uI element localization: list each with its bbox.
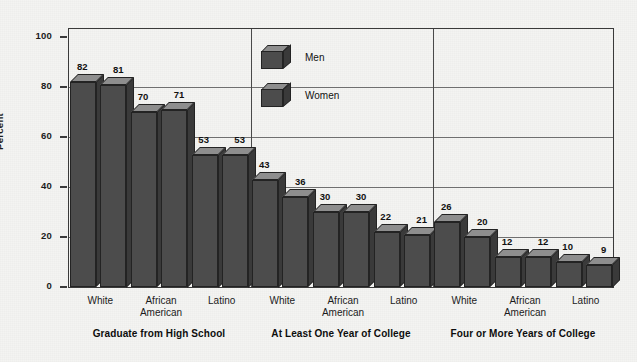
- bar-front-face: [100, 85, 126, 288]
- y-tick-label: 60: [22, 130, 52, 141]
- y-tick-mark: [60, 86, 67, 88]
- bar-front-face: [192, 155, 218, 288]
- bar-value-label: 12: [494, 236, 520, 247]
- bar-women: [343, 212, 369, 287]
- bar-value-label: 82: [69, 61, 95, 72]
- bar-value-label: 22: [373, 211, 399, 222]
- bar-value-label: 30: [312, 191, 338, 202]
- bar-front-face: [556, 262, 582, 287]
- y-tick-mark: [60, 236, 67, 238]
- bar-value-label: 12: [530, 236, 556, 247]
- bar-front-face: [252, 180, 278, 288]
- bar-value-label: 26: [433, 201, 459, 212]
- bar-men: [131, 112, 157, 287]
- legend-swatch-cube-icon: [261, 83, 291, 107]
- y-tick-label: 40: [22, 180, 52, 191]
- y-tick-label: 100: [22, 30, 52, 41]
- bar-front-face: [525, 257, 551, 287]
- y-tick-mark: [60, 136, 67, 138]
- bar-front-face: [586, 265, 612, 288]
- bar-front-face: [161, 110, 187, 288]
- bar-front-face: [131, 112, 157, 287]
- bar-value-label: 43: [251, 159, 277, 170]
- bar-value-label: 71: [166, 89, 192, 100]
- legend-label: Women: [305, 90, 339, 101]
- y-tick-mark: [60, 286, 67, 288]
- bar-value-label: 81: [105, 64, 131, 75]
- bar-front-face: [343, 212, 369, 287]
- plot-area: 82817071535343363030222126201212109 MenW…: [68, 28, 614, 288]
- bar-value-label: 53: [227, 134, 253, 145]
- bar-women: [525, 257, 551, 287]
- bar-women: [100, 85, 126, 288]
- bar-men: [434, 222, 460, 287]
- bar-value-label: 9: [591, 244, 617, 255]
- bar-value-label: 53: [191, 134, 217, 145]
- bar-value-label: 30: [348, 191, 374, 202]
- bar-value-label: 70: [130, 91, 156, 102]
- bar-men: [495, 257, 521, 287]
- bar-women: [161, 110, 187, 288]
- y-axis-title: Percent: [0, 113, 5, 150]
- bar-front-face: [434, 222, 460, 287]
- bar-value-label: 36: [287, 176, 313, 187]
- y-tick-mark: [60, 186, 67, 188]
- y-tick-mark: [60, 36, 67, 38]
- bar-front-face: [282, 197, 308, 287]
- bar-front-face: [464, 237, 490, 287]
- legend-cube-front-face: [261, 89, 283, 107]
- group-title: Graduate from High School: [68, 328, 250, 339]
- y-tick-label: 80: [22, 80, 52, 91]
- y-tick-label: 20: [22, 230, 52, 241]
- bar-value-label: 21: [409, 214, 435, 225]
- y-tick-label: 0: [22, 280, 52, 291]
- bar-men: [556, 262, 582, 287]
- bar-front-face: [495, 257, 521, 287]
- bar-women: [222, 155, 248, 288]
- bar-front-face: [374, 232, 400, 287]
- legend-swatch-cube-icon: [261, 45, 291, 69]
- bar-value-label: 10: [555, 241, 581, 252]
- bar-front-face: [222, 155, 248, 288]
- bar-front-face: [70, 82, 96, 287]
- bar-value-label: 20: [469, 216, 495, 227]
- bar-men: [252, 180, 278, 288]
- bar-women: [464, 237, 490, 287]
- bar-men: [70, 82, 96, 287]
- legend-cube-front-face: [261, 51, 283, 69]
- bar-men: [192, 155, 218, 288]
- group-title: Four or More Years of College: [432, 328, 614, 339]
- bar-front-face: [404, 235, 430, 288]
- category-label: Latino: [541, 295, 631, 307]
- bar-women: [404, 235, 430, 288]
- bar-women: [586, 265, 612, 288]
- legend-label: Men: [305, 52, 324, 63]
- bar-front-face: [313, 212, 339, 287]
- bar-chart: 100806040200 Percent 8281707153534336303…: [0, 0, 637, 362]
- bar-men: [374, 232, 400, 287]
- bar-men: [313, 212, 339, 287]
- group-title: At Least One Year of College: [250, 328, 432, 339]
- bar-women: [282, 197, 308, 287]
- gridline: [69, 87, 613, 88]
